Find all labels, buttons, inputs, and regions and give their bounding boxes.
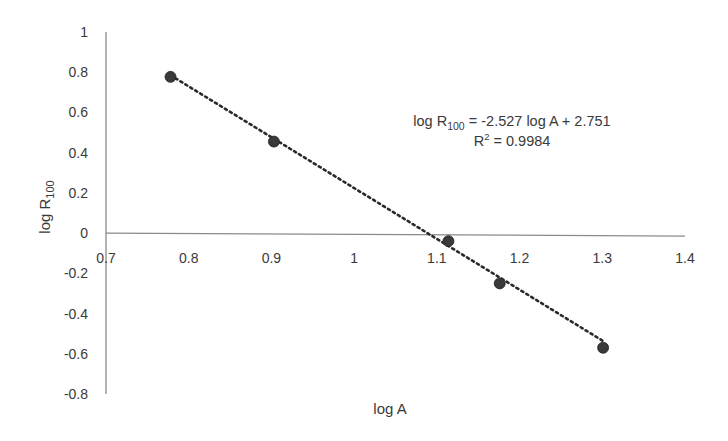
y-tick-label: -0.6 — [64, 346, 88, 362]
r-squared-label: R2 = 0.9984 — [474, 131, 551, 149]
y-tick-label: -0.8 — [64, 386, 88, 402]
x-tick-label: 1.3 — [593, 250, 613, 266]
chart-container: 10.80.60.40.20-0.2-0.4-0.6-0.80.70.80.91… — [0, 0, 728, 441]
y-axis-label: log R100 — [36, 180, 56, 233]
x-tick-label: 0.7 — [96, 250, 116, 266]
y-tick-label: 1 — [80, 24, 88, 40]
y-tick-label: 0.2 — [69, 185, 89, 201]
data-point-marker — [165, 71, 176, 82]
x-axis-line — [106, 233, 685, 236]
scatter-plot: 10.80.60.40.20-0.2-0.4-0.6-0.80.70.80.91… — [0, 0, 728, 441]
x-tick-label: 1.4 — [675, 250, 695, 266]
data-point-marker — [443, 236, 454, 247]
data-point-marker — [494, 278, 505, 289]
y-tick-label: 0.4 — [69, 145, 89, 161]
data-point-marker — [598, 342, 609, 353]
y-tick-label: -0.2 — [64, 265, 88, 281]
trendline-equation: log R100 = -2.527 log A + 2.751 — [413, 113, 610, 132]
x-axis-label: log A — [373, 400, 406, 417]
x-tick-label: 1.1 — [427, 250, 447, 266]
x-tick-label: 1.2 — [510, 250, 530, 266]
y-tick-label: 0 — [80, 225, 88, 241]
y-tick-label: 0.6 — [69, 104, 89, 120]
x-tick-label: 0.9 — [262, 250, 282, 266]
y-tick-label: -0.4 — [64, 306, 88, 322]
x-tick-label: 1 — [350, 250, 358, 266]
y-tick-label: 0.8 — [69, 64, 89, 80]
data-point-marker — [268, 136, 279, 147]
x-tick-label: 0.8 — [179, 250, 199, 266]
